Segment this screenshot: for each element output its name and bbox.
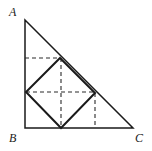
vertex-label-b: B xyxy=(9,132,16,144)
figure-canvas xyxy=(0,0,152,151)
geometry-figure: A B C xyxy=(0,0,152,151)
triangle-outline xyxy=(25,20,133,128)
vertex-label-c: C xyxy=(135,132,143,144)
vertex-label-a: A xyxy=(9,6,16,18)
